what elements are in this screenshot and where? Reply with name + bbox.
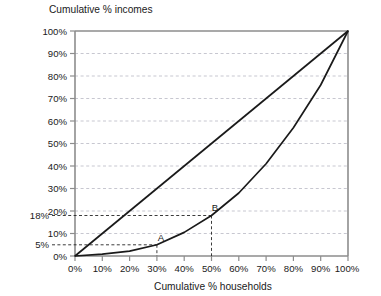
x-tick-label-90: 90% xyxy=(311,263,331,274)
y-tick-label-18: 18% xyxy=(30,210,50,221)
y-tick-label-60: 60% xyxy=(48,116,68,127)
lorenz-curve-chart: 100% 90% 80% 70% 60% 50% 40% 30% 20% 10%… xyxy=(0,0,381,296)
x-tick-label-30: 30% xyxy=(147,263,167,274)
x-tick-label-100: 100% xyxy=(335,263,360,274)
x-tick-label-50: 50% xyxy=(202,263,222,274)
y-tick-label-100: 100% xyxy=(42,26,67,37)
y-tick-label-30: 30% xyxy=(48,183,68,194)
x-axis-tick-labels: 0% 10% 20% 30% 40% 50% 60% 70% 80% 90% 1… xyxy=(68,263,360,274)
point-label-a: A xyxy=(158,232,165,243)
x-tick-label-60: 60% xyxy=(229,263,249,274)
x-tick-label-20: 20% xyxy=(120,263,140,274)
special-y-labels: 18% 5% xyxy=(30,210,50,250)
y-tick-label-50: 50% xyxy=(48,138,68,149)
y-tick-label-40: 40% xyxy=(48,161,68,172)
y-tick-label-10: 10% xyxy=(48,228,68,239)
y-tick-label-70: 70% xyxy=(48,93,68,104)
y-tick-label-0: 0% xyxy=(53,251,67,262)
point-label-b: B xyxy=(212,202,218,213)
y-tick-label-80: 80% xyxy=(48,71,68,82)
x-tick-label-70: 70% xyxy=(256,263,276,274)
y-axis-tick-labels: 100% 90% 80% 70% 60% 50% 40% 30% 20% 10%… xyxy=(42,26,67,262)
x-tick-label-10: 10% xyxy=(93,263,113,274)
x-tick-label-0: 0% xyxy=(68,263,82,274)
y-tick-label-5: 5% xyxy=(35,239,49,250)
chart-canvas: 100% 90% 80% 70% 60% 50% 40% 30% 20% 10%… xyxy=(0,0,381,296)
x-tick-label-80: 80% xyxy=(284,263,304,274)
y-tick-label-90: 90% xyxy=(48,48,68,59)
x-tick-label-40: 40% xyxy=(175,263,195,274)
y-axis-title: Cumulative % incomes xyxy=(49,4,153,15)
y-tick-label-20: 20% xyxy=(48,206,68,217)
x-axis-title: Cumulative % households xyxy=(154,281,272,292)
